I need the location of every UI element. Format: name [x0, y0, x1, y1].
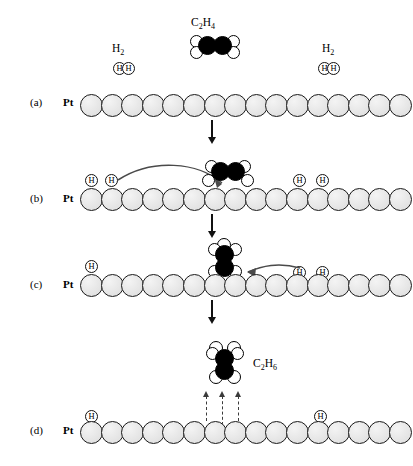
platinum-atom	[162, 274, 185, 297]
platinum-atom	[142, 421, 165, 444]
platinum-atom	[327, 274, 350, 297]
platinum-surface-d	[80, 421, 412, 445]
desorption-arrow	[203, 391, 210, 421]
platinum-atom	[368, 274, 391, 297]
platinum-atom	[80, 274, 103, 297]
desorption-arrow	[219, 391, 226, 425]
figure-canvas: (a) Pt H2 H H C2H4 H2 H H (b) P	[0, 0, 413, 466]
platinum-atom	[265, 274, 288, 297]
platinum-atom	[389, 421, 412, 444]
platinum-atom	[121, 274, 144, 297]
desorption-arrow	[235, 391, 242, 421]
carbon-sphere	[215, 361, 234, 380]
platinum-atom	[183, 421, 206, 444]
platinum-atom	[348, 274, 371, 297]
process-arrow-c-to-d	[211, 300, 212, 324]
platinum-atom	[101, 421, 124, 444]
platinum-atom	[204, 274, 227, 297]
platinum-surface-c	[80, 274, 412, 298]
platinum-atom	[224, 274, 247, 297]
platinum-atom	[101, 274, 124, 297]
platinum-atom	[245, 274, 268, 297]
panel-d-pt-label: Pt	[63, 424, 73, 436]
platinum-atom	[389, 274, 412, 297]
platinum-atom	[224, 421, 247, 444]
platinum-atom	[368, 421, 391, 444]
platinum-atom	[265, 421, 288, 444]
platinum-atom	[286, 421, 309, 444]
platinum-atom	[80, 421, 103, 444]
platinum-atom	[183, 274, 206, 297]
platinum-atom	[142, 274, 165, 297]
ethane-label: C2H6	[253, 357, 277, 372]
platinum-atom	[162, 421, 185, 444]
platinum-atom	[307, 421, 330, 444]
ethane-molecule	[206, 341, 248, 386]
platinum-atom	[286, 274, 309, 297]
panel-d-letter: (d)	[30, 424, 43, 436]
platinum-atom	[327, 421, 350, 444]
platinum-atom	[307, 274, 330, 297]
platinum-atom	[204, 421, 227, 444]
platinum-atom	[348, 421, 371, 444]
platinum-atom	[121, 421, 144, 444]
platinum-atom	[245, 421, 268, 444]
